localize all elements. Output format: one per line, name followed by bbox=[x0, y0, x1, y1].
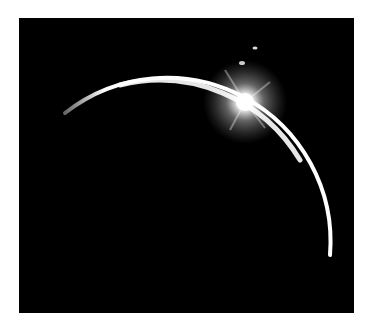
planet-limb-arc bbox=[65, 78, 331, 255]
star-speck bbox=[253, 47, 258, 50]
eclipse-scene bbox=[0, 0, 369, 329]
sun-core bbox=[236, 93, 254, 111]
star-speck bbox=[239, 61, 245, 65]
